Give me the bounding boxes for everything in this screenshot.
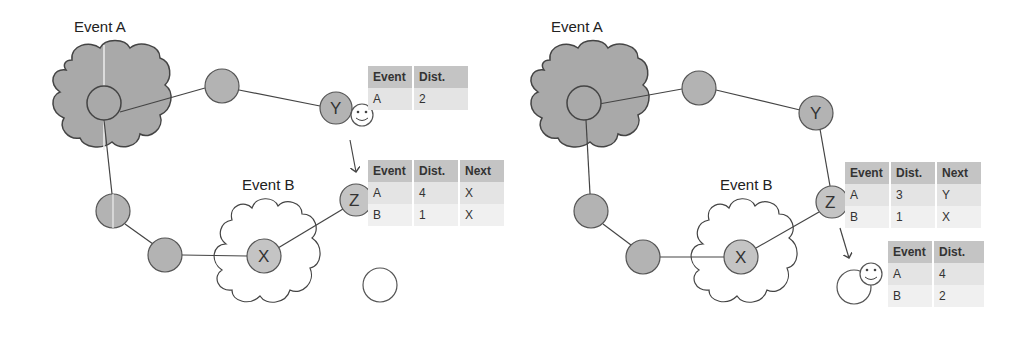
- node-x-label: X: [735, 248, 746, 267]
- table-row: A 2: [368, 88, 468, 110]
- node-y-label: Y: [810, 104, 821, 123]
- node-z-label: Z: [349, 191, 359, 210]
- node-x-label: X: [258, 247, 269, 266]
- left-panel: Y Z X: [53, 41, 397, 303]
- table-row: B 1 X: [368, 204, 504, 226]
- table-agent: Event Dist. A 4 B 2: [886, 241, 986, 307]
- event-a-source-node: [567, 86, 601, 120]
- graph-node: [574, 194, 608, 228]
- event-a-label: Event A: [74, 18, 126, 35]
- event-b-label: Event B: [242, 176, 295, 193]
- smiley-agent-icon: [837, 263, 882, 304]
- node-y-label: Y: [330, 99, 341, 118]
- column-header: Next: [937, 162, 981, 184]
- table-row: B 1 X: [845, 206, 981, 228]
- column-header: Dist.: [891, 162, 935, 184]
- table-row: A 4: [888, 263, 984, 285]
- column-header: Next: [460, 160, 504, 182]
- graph-node: [205, 69, 239, 103]
- graph-node: [148, 238, 182, 272]
- right-panel: Y Z X: [531, 41, 882, 305]
- column-header: Event: [368, 66, 412, 88]
- table-z-routing: Event Dist. Next A 3 Y B 1 X: [843, 162, 983, 228]
- column-header: Dist.: [414, 160, 458, 182]
- column-header: Dist.: [934, 241, 984, 263]
- table-row: A 3 Y: [845, 184, 981, 206]
- node-z-label: Z: [825, 193, 835, 212]
- event-a-label: Event A: [551, 18, 603, 35]
- column-header: Event: [888, 241, 932, 263]
- column-header: Event: [845, 162, 889, 184]
- table-row: B 2: [888, 285, 984, 307]
- table-z-routing: Event Dist. Next A 4 X B 1 X: [366, 160, 506, 226]
- empty-node: [363, 268, 397, 302]
- column-header: Event: [368, 160, 412, 182]
- column-header: Dist.: [414, 66, 468, 88]
- event-a-source-node: [87, 86, 121, 120]
- table-row: A 4 X: [368, 182, 504, 204]
- graph-node: [626, 240, 660, 274]
- graph-node: [682, 71, 716, 105]
- event-b-label: Event B: [720, 176, 773, 193]
- table-y-routing: Event Dist. A 2: [366, 66, 470, 110]
